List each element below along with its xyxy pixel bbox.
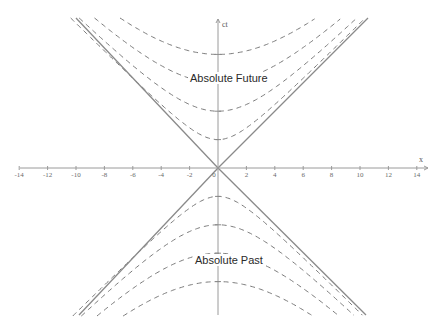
x-tick-label: -2	[187, 171, 193, 179]
x-tick-label: -8	[101, 171, 107, 179]
light-cone-line-past-right	[218, 168, 366, 315]
x-tick-label: 0	[212, 171, 216, 179]
light-cone-line-future-left	[76, 18, 218, 168]
light-cone-line-past-left	[79, 168, 218, 315]
x-tick-label: -10	[71, 171, 80, 179]
spacetime-diagram	[0, 0, 446, 335]
x-tick-label: -14	[15, 171, 24, 179]
x-tick-label: 8	[330, 171, 334, 179]
x-tick-label: 4	[273, 171, 277, 179]
future-hyperbola	[120, 18, 315, 54]
x-tick-label: -6	[130, 171, 136, 179]
x-tick-label: 6	[301, 171, 305, 179]
x-tick-label: 14	[413, 171, 420, 179]
x-tick-label: 10	[357, 171, 364, 179]
absolute-past-label: Absolute Past	[193, 254, 265, 266]
x-tick-label: 2	[245, 171, 249, 179]
x-tick-label: -4	[158, 171, 164, 179]
axes	[20, 19, 428, 315]
light-cone-line-future-right	[218, 18, 368, 168]
absolute-future-label: Absolute Future	[188, 72, 270, 84]
x-tick-label: -12	[43, 171, 52, 179]
x-axis-label: x	[419, 155, 423, 164]
x-tick-label: 12	[385, 171, 392, 179]
y-axis-label: ct	[222, 20, 228, 29]
